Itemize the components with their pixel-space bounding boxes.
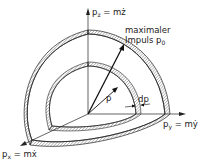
p0-arrow-icon — [119, 44, 124, 51]
p0-vector — [88, 48, 122, 114]
x-axis-label: px = mẋ — [2, 150, 37, 160]
z-axis-arrow-icon — [86, 8, 90, 15]
p0-label: p0 — [156, 35, 165, 45]
x-axis-arrow-icon — [20, 141, 27, 146]
max-momentum-label-line2: Impuls p0 — [125, 36, 165, 46]
dp-label: dp — [138, 95, 149, 104]
max-momentum-label-line1: maximaler — [125, 26, 170, 35]
p-label: p — [106, 94, 111, 103]
y-axis-arrow-icon — [179, 112, 186, 116]
z-axis-label: pz = mż — [92, 8, 126, 18]
inner-shell — [46, 62, 141, 131]
y-axis-label: py = mẏ — [163, 120, 198, 130]
momentum-shell-diagram — [0, 0, 205, 164]
